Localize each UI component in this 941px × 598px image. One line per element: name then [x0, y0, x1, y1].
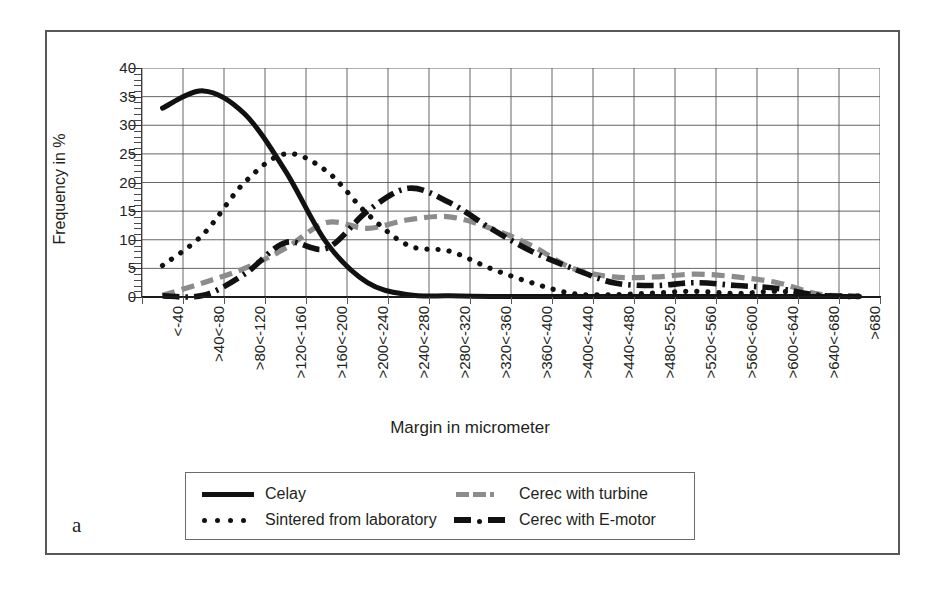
y-minor-tick	[134, 177, 141, 178]
legend-column-left: CelaySintered from laboratory	[200, 481, 437, 533]
x-category-label: >680	[867, 306, 882, 340]
legend-swatch-dash	[473, 492, 486, 497]
y-minor-tick	[134, 263, 141, 264]
legend-swatch-dot	[241, 518, 246, 523]
y-minor-tick	[134, 228, 141, 229]
x-axis-tick	[224, 297, 225, 304]
x-axis-tick	[716, 297, 717, 304]
legend-item-label: Sintered from laboratory	[265, 512, 437, 528]
legend-swatch-dot	[477, 519, 482, 524]
y-axis-title: Frequency in %	[51, 89, 69, 289]
y-minor-tick	[134, 160, 141, 161]
x-axis-tick	[593, 297, 594, 304]
y-minor-tick	[134, 114, 141, 115]
y-minor-tick	[134, 291, 141, 292]
y-major-tick	[130, 125, 141, 126]
legend-swatch-solid	[202, 492, 254, 497]
x-axis-tick	[429, 297, 430, 304]
y-minor-tick	[134, 234, 141, 235]
y-minor-tick	[134, 148, 141, 149]
x-category-label: >520<-560	[703, 306, 718, 379]
x-category-label: >200<-240	[375, 306, 390, 379]
legend-item[interactable]: Sintered from laboratory	[200, 507, 437, 533]
y-minor-tick	[134, 251, 141, 252]
x-category-label: >120<-160	[293, 306, 308, 379]
x-category-label: >320<-360	[498, 306, 513, 379]
legend-item[interactable]: Cerec with E-motor	[454, 507, 656, 533]
x-axis-tick	[306, 297, 307, 304]
y-minor-tick	[134, 120, 141, 121]
x-axis-tick	[675, 297, 676, 304]
y-minor-tick	[134, 246, 141, 247]
x-category-label: >160<-200	[334, 306, 349, 379]
y-minor-tick	[134, 85, 141, 86]
y-minor-tick	[134, 188, 141, 189]
x-axis-tick	[511, 297, 512, 304]
x-axis-tick	[183, 297, 184, 304]
plot-area	[142, 68, 880, 297]
x-axis-tick	[839, 297, 840, 304]
legend-swatch-dot	[228, 518, 233, 523]
x-axis-tick	[798, 297, 799, 304]
legend-item[interactable]: Celay	[200, 481, 437, 507]
legend-item-label: Cerec with E-motor	[519, 512, 656, 528]
chart-plot-wrapper: Frequency in % 0510152025303540 <-40>40<…	[0, 0, 941, 598]
x-category-label: >560<-600	[744, 306, 759, 379]
y-minor-tick	[134, 286, 141, 287]
series-lines	[142, 68, 880, 297]
legend-swatch	[454, 513, 510, 527]
x-category-label: >360<-400	[539, 306, 554, 379]
y-major-tick	[130, 240, 141, 241]
y-minor-tick	[134, 131, 141, 132]
y-minor-tick	[134, 171, 141, 172]
y-minor-tick	[134, 74, 141, 75]
y-major-tick	[130, 211, 141, 212]
legend-swatch-dash	[456, 492, 469, 497]
figure-letter: a	[72, 513, 81, 538]
y-minor-tick	[134, 102, 141, 103]
x-category-label: >600<-640	[785, 306, 800, 379]
x-axis-tick	[880, 297, 881, 304]
x-axis-tick	[757, 297, 758, 304]
x-category-label: >440<-480	[621, 306, 636, 379]
y-minor-tick	[134, 108, 141, 109]
y-minor-tick	[134, 137, 141, 138]
legend-swatch-dot	[202, 518, 207, 523]
y-minor-tick	[134, 165, 141, 166]
y-minor-tick	[134, 274, 141, 275]
legend-swatch-dot	[215, 518, 220, 523]
x-category-label: <-40	[170, 306, 185, 336]
y-minor-tick	[134, 200, 141, 201]
legend-item[interactable]: Cerec with turbine	[454, 481, 656, 507]
x-category-label: >240<-280	[416, 306, 431, 379]
y-minor-tick	[134, 223, 141, 224]
legend-item-label: Cerec with turbine	[519, 486, 648, 502]
y-minor-tick	[134, 205, 141, 206]
x-axis-tick	[470, 297, 471, 304]
x-category-label: >80<-120	[252, 306, 267, 370]
x-axis-tick	[265, 297, 266, 304]
y-minor-tick	[134, 91, 141, 92]
x-axis-tick	[552, 297, 553, 304]
y-axis-tick-labels: 0510152025303540	[96, 0, 136, 598]
x-category-label: >480<-520	[662, 306, 677, 379]
legend-swatch	[454, 487, 510, 501]
x-axis-title: Margin in micrometer	[300, 418, 640, 438]
y-minor-tick	[134, 280, 141, 281]
x-category-label: >280<-320	[457, 306, 472, 379]
legend-swatch	[200, 487, 256, 501]
legend-swatch-dash	[490, 492, 494, 497]
chart-legend: CelaySintered from laboratory Cerec with…	[185, 472, 695, 540]
y-major-tick	[130, 297, 141, 298]
y-major-tick	[130, 268, 141, 269]
y-major-tick	[130, 183, 141, 184]
x-category-label: >640<-680	[826, 306, 841, 379]
x-axis-tick	[347, 297, 348, 304]
x-axis-tick	[634, 297, 635, 304]
x-category-label: >40<-80	[211, 306, 226, 362]
legend-swatch-dash	[488, 517, 505, 523]
y-minor-tick	[134, 217, 141, 218]
y-minor-tick	[134, 257, 141, 258]
legend-swatch-dash	[454, 517, 471, 523]
y-minor-tick	[134, 80, 141, 81]
